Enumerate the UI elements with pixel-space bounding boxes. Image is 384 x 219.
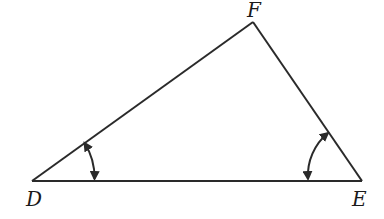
triangle-def [32, 22, 362, 181]
angle-d-arc [85, 143, 95, 179]
side-fd [32, 22, 253, 181]
vertex-label-d: D [26, 189, 42, 209]
vertex-label-e: E [352, 189, 367, 209]
angle-e-arc [308, 133, 328, 179]
triangle-diagram [0, 0, 384, 219]
vertex-label-f: F [247, 0, 261, 20]
side-ef [253, 22, 362, 181]
